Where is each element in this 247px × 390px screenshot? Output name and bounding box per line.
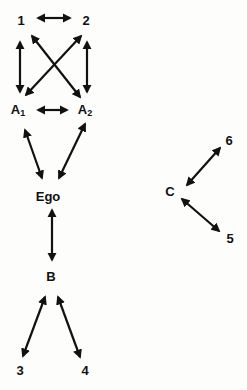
node-label-n6: 6	[225, 133, 232, 148]
node-label-A2: A2	[78, 102, 92, 118]
node-label-n3: 3	[16, 363, 23, 378]
node-subscript: 1	[20, 108, 25, 118]
network-diagram: 12A1A2EgoB34C65	[0, 0, 247, 390]
node-label-B: B	[46, 269, 55, 284]
double-arrow-C-n5	[182, 199, 219, 231]
node-label-n5: 5	[226, 231, 233, 246]
double-arrow-B-n4	[58, 297, 80, 357]
node-label-n2: 2	[82, 13, 89, 28]
nodes-group: 12A1A2EgoB34C65	[11, 13, 234, 378]
node-label-A1: A1	[11, 102, 25, 118]
double-arrow-B-n3	[23, 297, 45, 356]
double-arrow-A1-Ego	[25, 130, 42, 178]
double-arrow-C-n6	[187, 148, 220, 185]
node-label-n4: 4	[81, 363, 89, 378]
node-label-Ego: Ego	[36, 189, 61, 204]
node-label-C: C	[165, 184, 175, 199]
node-subscript: 2	[87, 108, 92, 118]
edges-group	[20, 18, 220, 357]
node-label-n1: 1	[17, 13, 24, 28]
double-arrow-A2-Ego	[59, 124, 85, 178]
